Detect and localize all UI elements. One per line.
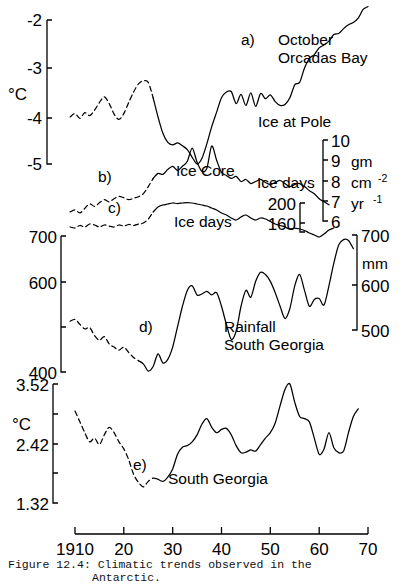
panel-b-unit-2: cm: [351, 174, 372, 191]
panel-c-tick-1: 160: [268, 215, 296, 234]
panel-a-unit: °C: [8, 85, 27, 104]
x-tick-label-0: 1910: [56, 540, 94, 559]
panel-d-label-1: Rainfall: [224, 318, 276, 335]
panel-d-unit: mm: [362, 255, 388, 272]
panel-d-tick-left-0: 700: [29, 228, 57, 247]
x-tick-label-5: 60: [310, 540, 329, 559]
panel-e-tick-1: 2.42: [16, 436, 49, 455]
panel-c-axis: [300, 203, 305, 232]
panel-b-key: b): [98, 168, 112, 185]
panel-b-tick-0: 10: [331, 132, 350, 151]
panel-e-tick-2: 1.32: [16, 495, 49, 514]
panel-e-axis: [53, 384, 58, 503]
panel-d-label-2: South Georgia: [224, 336, 324, 353]
panel-b-unit-1: gm: [351, 153, 373, 170]
panel-c-label: Ice days: [174, 213, 232, 230]
panel-c-tick-0: 200: [268, 195, 296, 214]
panel-e-tick-0: 3.52: [16, 376, 49, 395]
panel-b-unit-2-sup: -2: [378, 172, 387, 184]
caption-line-2: Antarctic.: [0, 571, 404, 584]
caption-line-1: Figure 12.4: Climatic trends observed in…: [0, 558, 404, 571]
panel-a-axis: [47, 20, 52, 164]
panel-c-axis-title: Ice days: [257, 174, 315, 191]
panel-d-axis-right: [352, 235, 357, 330]
panel-d-axis-left: [61, 236, 66, 372]
panel-a-tick-1: -3: [27, 59, 42, 78]
panel-a-label-1: October: [278, 31, 333, 48]
panel-b-unit-3: yr: [351, 195, 364, 212]
x-tick-label-4: 50: [261, 540, 280, 559]
panel-b-unit-3-sup: -1: [373, 193, 382, 205]
panel-d-tick-right-1: 600: [361, 277, 389, 296]
panel-e-key: e): [133, 456, 147, 473]
panel-b-tick-2: 8: [331, 173, 340, 192]
x-tick-label-6: 70: [359, 540, 378, 559]
panel-b-label: Ice Core: [176, 162, 235, 179]
panel-d-key: d): [139, 318, 153, 335]
panel-a-tick-0: -2: [27, 11, 42, 30]
panel-c-key: c): [108, 199, 121, 216]
panel-d-tick-right-0: 700: [361, 227, 389, 246]
figure-caption: Figure 12.4: Climatic trends observed in…: [0, 558, 404, 584]
x-tick-label-3: 40: [212, 540, 231, 559]
panel-e-label: South Georgia: [168, 470, 268, 487]
panel-a-key: a): [241, 31, 255, 48]
panel-e-unit: °C: [12, 415, 31, 434]
panel-b-tick-1: 9: [331, 152, 340, 171]
x-axis-tick-labels: 1910203040506070: [56, 540, 377, 559]
panel-d-tick-left-1: 600: [29, 274, 57, 293]
panel-b-axis: [323, 140, 328, 221]
x-tick-label-2: 30: [163, 540, 182, 559]
panel-a-tick-3: -5: [27, 155, 42, 174]
panel-d-tick-right-2: 500: [361, 322, 389, 341]
x-tick-label-1: 20: [114, 540, 133, 559]
panel-b-axis-title: Ice at Pole: [258, 113, 331, 130]
x-axis: [75, 527, 368, 534]
climatic-trends-figure: -2 -3 -4 -5 °C a) October Orcadas Bay Ic…: [0, 0, 404, 586]
panel-b-tick-3: 7: [331, 193, 340, 212]
panel-a-label-2: Orcadas Bay: [278, 49, 368, 66]
panel-a-tick-2: -4: [27, 109, 42, 128]
